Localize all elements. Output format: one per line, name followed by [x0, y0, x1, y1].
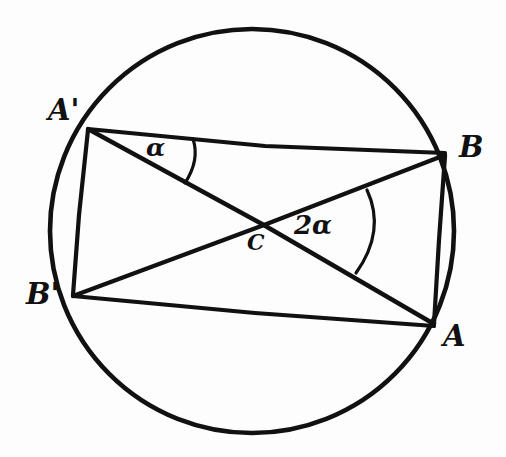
angle-label-alpha: α [146, 135, 165, 160]
point-label-c: C [247, 231, 265, 253]
point-label-b-prime: B' [26, 280, 59, 309]
chord-bprime-b [73, 155, 445, 296]
chord-aprime-b [88, 129, 445, 153]
angle-arc-alpha [185, 139, 195, 183]
angle-label-two-alpha: 2α [294, 212, 332, 238]
point-label-b: B [459, 133, 484, 162]
point-label-a: A [443, 322, 466, 351]
chord-aprime-bprime [73, 130, 88, 295]
angle-arc-two-alpha [356, 190, 374, 273]
point-label-a-prime: A' [48, 96, 79, 125]
chord-bprime-a [73, 296, 434, 326]
geometry-diagram: A' B B' A C α 2α [0, 0, 506, 457]
